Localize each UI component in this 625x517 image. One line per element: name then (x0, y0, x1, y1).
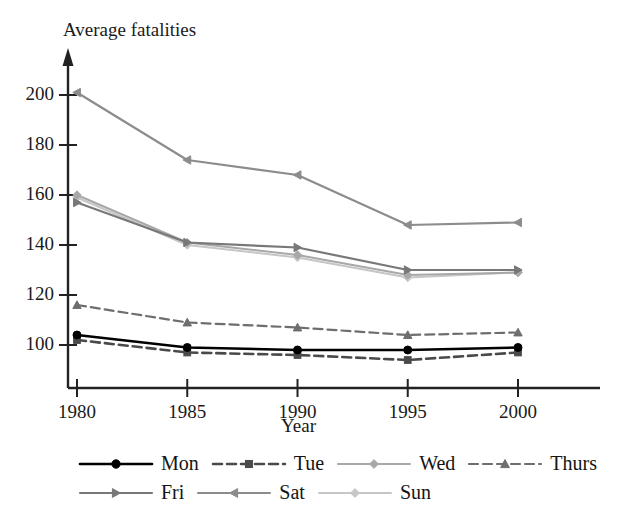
y-axis-tick-label: 140 (8, 233, 54, 255)
series-sat (73, 88, 522, 229)
series-fri (74, 198, 523, 274)
data-point-marker (294, 243, 302, 251)
legend-label: Thurs (550, 452, 597, 475)
legend-label: Mon (161, 452, 199, 475)
y-axis-title: Average fatalities (63, 19, 196, 41)
chart-figure: Average fatalities Year 1001201401601802… (0, 0, 625, 517)
series-line-sun (77, 198, 518, 278)
series-line-sat (77, 93, 518, 226)
data-point-marker (404, 221, 412, 229)
legend-label: Wed (419, 452, 455, 475)
y-axis-tick-label: 180 (8, 133, 54, 155)
legend-swatch-thurs (467, 455, 543, 473)
legend-swatch-fri (78, 484, 154, 502)
legend-row: MonTueWedThurs (78, 449, 598, 478)
series-line-wed (77, 195, 518, 275)
y-axis-arrow-icon (63, 48, 74, 66)
legend-item-wed[interactable]: Wed (336, 452, 467, 475)
data-point-marker (351, 488, 360, 497)
legend-label: Tue (294, 452, 324, 475)
legend-swatch-sun (317, 484, 393, 502)
data-point-marker (230, 488, 238, 497)
data-point-marker (73, 331, 81, 339)
legend-label: Fri (161, 481, 184, 504)
y-axis-tick-label: 160 (8, 183, 54, 205)
legend-item-thurs[interactable]: Thurs (467, 452, 609, 475)
x-axis-tick-label: 1985 (157, 401, 217, 423)
legend-label: Sun (400, 481, 431, 504)
data-point-marker (183, 344, 191, 352)
legend-item-mon[interactable]: Mon (78, 452, 211, 475)
series-wed (73, 191, 522, 279)
data-point-marker (112, 488, 120, 497)
data-point-marker (370, 459, 379, 468)
series-sun (73, 193, 522, 281)
x-axis-tick-label: 2000 (488, 401, 548, 423)
x-axis-tick-label: 1995 (378, 401, 438, 423)
data-point-marker (514, 218, 522, 226)
y-axis-tick-label: 100 (8, 333, 54, 355)
data-point-marker (404, 357, 411, 364)
legend-row: FriSatSun (78, 478, 598, 507)
legend-item-sun[interactable]: Sun (317, 481, 443, 504)
chart-legend: MonTueWedThursFriSatSun (78, 449, 598, 507)
data-point-marker (245, 460, 252, 467)
legend-label: Sat (279, 481, 305, 504)
legend-swatch-wed (336, 455, 412, 473)
data-point-marker (112, 459, 120, 467)
series-thurs (73, 301, 522, 339)
plot-area (0, 0, 625, 517)
y-axis-tick-label: 200 (8, 83, 54, 105)
legend-item-sat[interactable]: Sat (196, 481, 317, 504)
data-point-marker (293, 171, 301, 179)
data-point-marker (404, 346, 412, 354)
legend-item-tue[interactable]: Tue (211, 452, 336, 475)
legend-swatch-mon (78, 455, 154, 473)
x-axis-tick-label: 1990 (268, 401, 328, 423)
data-point-marker (514, 344, 522, 352)
data-point-marker (294, 346, 302, 354)
legend-swatch-tue (211, 455, 287, 473)
x-axis-tick-label: 1980 (47, 401, 107, 423)
y-axis-tick-label: 120 (8, 283, 54, 305)
legend-swatch-sat (196, 484, 272, 502)
legend-item-fri[interactable]: Fri (78, 481, 196, 504)
